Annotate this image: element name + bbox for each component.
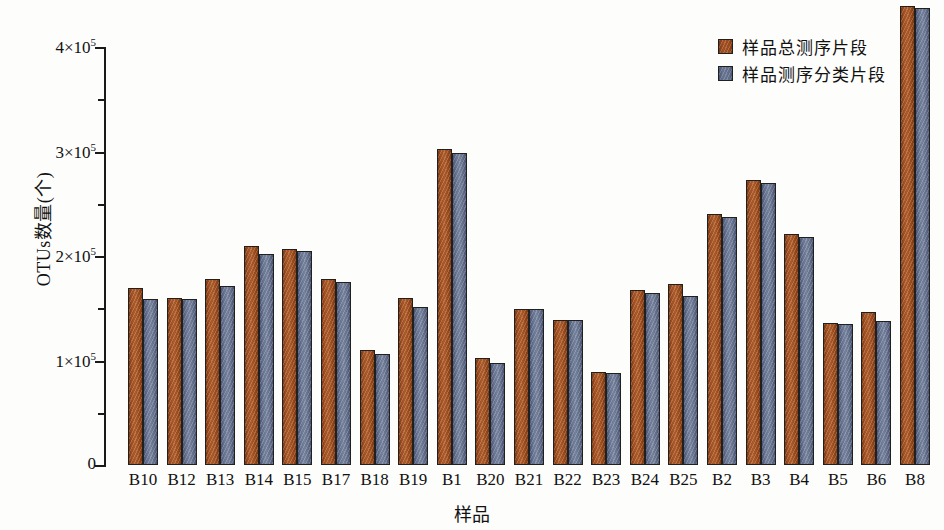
bar-group — [591, 0, 621, 466]
bar-classified-reads[interactable] — [761, 183, 776, 465]
bar-classified-reads[interactable] — [452, 153, 467, 465]
bar-classified-reads[interactable] — [876, 321, 891, 465]
y-tick-label: 4×105 — [0, 36, 96, 58]
bar-total-reads[interactable] — [282, 249, 297, 465]
legend-label-classified-reads: 样品测序分类片段 — [742, 61, 886, 86]
bar-classified-reads[interactable] — [799, 237, 814, 465]
y-tick-major — [95, 256, 106, 258]
y-tick-minor — [98, 308, 105, 310]
bar-group — [282, 0, 312, 466]
bar-group — [128, 0, 158, 466]
legend-item-classified[interactable]: 样品测序分类片段 — [718, 60, 886, 87]
bar-group — [437, 0, 467, 466]
bar-classified-reads[interactable] — [915, 8, 930, 465]
bar-total-reads[interactable] — [591, 372, 606, 465]
y-tick-minor — [98, 99, 105, 101]
bar-classified-reads[interactable] — [259, 254, 274, 465]
bar-classified-reads[interactable] — [838, 324, 853, 465]
bar-total-reads[interactable] — [784, 234, 799, 465]
bar-total-reads[interactable] — [668, 284, 683, 465]
bar-group — [205, 0, 235, 466]
bar-total-reads[interactable] — [746, 180, 761, 465]
x-axis-title: 样品 — [0, 500, 944, 526]
otu-bar-chart-figure: OTUs数量(个) 01×1052×1053×1054×105 B10B12B1… — [0, 0, 944, 530]
legend-swatch-classified-reads — [718, 66, 733, 81]
legend: 样品总测序片段 样品测序分类片段 — [718, 33, 886, 87]
y-tick-major — [95, 152, 106, 154]
bar-total-reads[interactable] — [205, 279, 220, 465]
bar-classified-reads[interactable] — [683, 296, 698, 465]
bar-group — [398, 0, 428, 466]
bar-total-reads[interactable] — [707, 214, 722, 465]
bar-group — [167, 0, 197, 466]
bar-total-reads[interactable] — [244, 246, 259, 465]
bar-total-reads[interactable] — [360, 350, 375, 465]
y-tick-minor — [98, 204, 105, 206]
bar-group — [244, 0, 274, 466]
bar-total-reads[interactable] — [823, 323, 838, 465]
bar-total-reads[interactable] — [630, 290, 645, 466]
bar-total-reads[interactable] — [514, 309, 529, 465]
y-tick-label: 3×105 — [0, 141, 96, 163]
bar-group — [514, 0, 544, 466]
bar-classified-reads[interactable] — [722, 217, 737, 465]
bar-classified-reads[interactable] — [568, 320, 583, 465]
legend-item-total[interactable]: 样品总测序片段 — [718, 33, 886, 60]
bar-total-reads[interactable] — [321, 279, 336, 465]
bar-classified-reads[interactable] — [490, 363, 505, 465]
bar-total-reads[interactable] — [128, 288, 143, 465]
bar-total-reads[interactable] — [398, 298, 413, 465]
bar-total-reads[interactable] — [167, 298, 182, 465]
y-tick-label: 0 — [0, 454, 96, 474]
bar-total-reads[interactable] — [553, 320, 568, 465]
bar-classified-reads[interactable] — [375, 354, 390, 465]
bar-total-reads[interactable] — [437, 149, 452, 465]
bar-classified-reads[interactable] — [182, 299, 197, 465]
bar-classified-reads[interactable] — [297, 251, 312, 465]
bar-classified-reads[interactable] — [529, 309, 544, 465]
bar-classified-reads[interactable] — [606, 373, 621, 465]
y-tick-minor — [98, 413, 105, 415]
bar-classified-reads[interactable] — [143, 299, 158, 465]
y-tick-label: 1×105 — [0, 350, 96, 372]
y-axis-title: OTUs数量(个) — [29, 99, 55, 359]
bar-group — [475, 0, 505, 466]
bar-group — [668, 0, 698, 466]
bar-classified-reads[interactable] — [645, 293, 660, 465]
bar-group — [630, 0, 660, 466]
bar-total-reads[interactable] — [475, 358, 490, 465]
bar-total-reads[interactable] — [900, 6, 915, 465]
y-tick-label: 2×105 — [0, 245, 96, 267]
y-tick-major — [95, 465, 106, 467]
bar-classified-reads[interactable] — [413, 307, 428, 465]
bar-classified-reads[interactable] — [336, 282, 351, 465]
bar-group — [900, 0, 930, 466]
y-tick-major — [95, 361, 106, 363]
bar-group — [553, 0, 583, 466]
x-tick-label: B8 — [887, 470, 943, 490]
legend-swatch-total-reads — [718, 39, 733, 54]
bar-classified-reads[interactable] — [220, 286, 235, 465]
bar-group — [360, 0, 390, 466]
bar-total-reads[interactable] — [861, 312, 876, 465]
y-tick-major — [95, 47, 106, 49]
legend-label-total-reads: 样品总测序片段 — [742, 34, 868, 59]
bar-group — [321, 0, 351, 466]
